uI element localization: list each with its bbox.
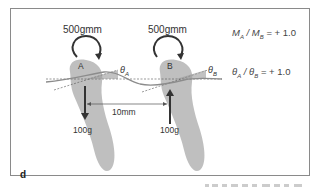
distance-label: 10mm [112, 108, 136, 117]
moment-label-a: 500gmm [63, 25, 102, 35]
caption-fragment [205, 184, 302, 187]
angle-ratio-equation: θA / θB = + 1.0 [232, 67, 291, 79]
moment-label-b: 500gmm [148, 25, 187, 35]
force-label-b: 100g [160, 126, 179, 135]
angle-label-b: θB [208, 66, 217, 77]
tooth-label-b: B [167, 62, 173, 71]
tooth-label-a: A [78, 62, 84, 71]
panel-label: d [20, 170, 26, 180]
angle-label-a: θA [120, 66, 129, 77]
force-label-a: 100g [73, 126, 92, 135]
moment-ratio-equation: MA / MB = + 1.0 [232, 28, 296, 40]
